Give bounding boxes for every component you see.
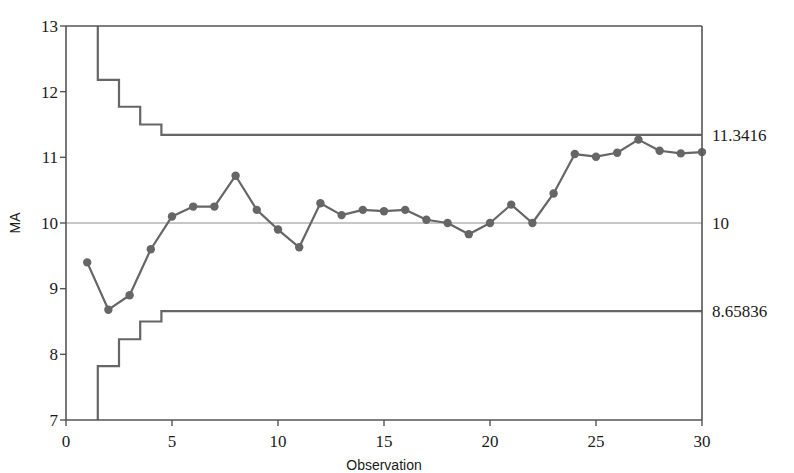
data-point [486, 219, 494, 227]
x-axis-title: Observation [346, 457, 421, 473]
y-tick-label-11: 11 [42, 148, 58, 167]
data-point [125, 291, 133, 299]
data-point [507, 200, 515, 208]
data-point [634, 135, 642, 143]
data-point [337, 211, 345, 219]
ucl-value-label: 11.3416 [712, 126, 767, 145]
x-tick-label-5: 5 [168, 432, 177, 451]
data-point [677, 149, 685, 157]
data-point [210, 202, 218, 210]
x-tick-label-0: 0 [62, 432, 71, 451]
y-tick-label-7: 7 [50, 411, 59, 430]
data-point [655, 147, 663, 155]
data-point [168, 212, 176, 220]
data-point [443, 219, 451, 227]
data-point [401, 206, 409, 214]
y-tick-label-8: 8 [50, 345, 59, 364]
y-axis-title: MA [7, 212, 23, 234]
data-point [295, 243, 303, 251]
y-tick-label-10: 10 [41, 214, 58, 233]
data-point [592, 152, 600, 160]
data-point [359, 206, 367, 214]
lcl-value-label: 8.65836 [712, 302, 767, 321]
chart-background [0, 0, 794, 473]
moving-average-control-chart: 13 12 11 10 9 8 7 0 5 10 15 20 25 30 MA … [0, 0, 794, 473]
y-tick-label-9: 9 [50, 279, 59, 298]
x-tick-label-25: 25 [588, 432, 605, 451]
x-tick-label-30: 30 [694, 432, 711, 451]
data-point [465, 230, 473, 238]
x-tick-label-20: 20 [482, 432, 499, 451]
data-point [189, 202, 197, 210]
data-point [316, 199, 324, 207]
data-point [613, 149, 621, 157]
data-point [231, 172, 239, 180]
chart-page: 13 12 11 10 9 8 7 0 5 10 15 20 25 30 MA … [0, 0, 794, 473]
x-tick-label-15: 15 [376, 432, 393, 451]
data-point [549, 189, 557, 197]
x-tick-label-10: 10 [270, 432, 287, 451]
data-point [104, 305, 112, 313]
data-point [147, 245, 155, 253]
chart-canvas: 13 12 11 10 9 8 7 0 5 10 15 20 25 30 MA … [0, 0, 794, 473]
data-point [380, 207, 388, 215]
data-point [83, 258, 91, 266]
y-tick-label-12: 12 [41, 83, 58, 102]
data-point [253, 206, 261, 214]
data-point [528, 219, 536, 227]
center-value-label: 10 [712, 214, 729, 233]
y-tick-label-13: 13 [41, 17, 58, 36]
data-point [422, 216, 430, 224]
data-point [274, 225, 282, 233]
data-point [571, 150, 579, 158]
